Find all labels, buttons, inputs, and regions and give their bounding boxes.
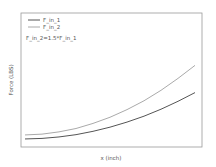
x-axis-label: x (inch)	[101, 155, 122, 161]
chart: F_in_1 F_in_2 F_in_2=1.5*F_in_1 x (inch)…	[0, 0, 216, 167]
legend-label-f-in-2: F_in_2	[43, 24, 60, 31]
formula-annotation: F_in_2=1.5*F_in_1	[26, 35, 76, 42]
y-axis-label: Force (LBS)	[8, 64, 14, 95]
legend-label-f-in-1: F_in_1	[43, 17, 60, 24]
